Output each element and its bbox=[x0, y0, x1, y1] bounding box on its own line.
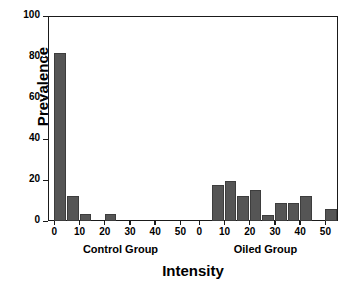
y-tick-0: 0 bbox=[0, 221, 48, 222]
y-tick-mark bbox=[43, 180, 48, 182]
y-tick-mark bbox=[43, 221, 48, 223]
y-tick-20: 20 bbox=[0, 180, 48, 181]
y-tick-mark bbox=[43, 57, 48, 59]
x-tick-mark bbox=[224, 221, 226, 225]
x-tick-mark bbox=[249, 221, 251, 225]
y-tick-label: 80 bbox=[29, 50, 40, 61]
x-tick-label: 0 bbox=[40, 226, 68, 237]
y-tick-mark bbox=[43, 98, 48, 100]
x-tick-mark bbox=[154, 221, 156, 225]
y-tick-60: 60 bbox=[0, 98, 48, 99]
y-tick-mark bbox=[43, 139, 48, 141]
x-tick-label: 10 bbox=[211, 226, 239, 237]
y-tick-40: 40 bbox=[0, 139, 48, 140]
x-tick-label: 20 bbox=[236, 226, 264, 237]
x-tick-label: 10 bbox=[66, 226, 94, 237]
x-axis-title: Intensity bbox=[48, 262, 338, 279]
y-tick-mark bbox=[43, 16, 48, 18]
x-tick-label: 50 bbox=[311, 226, 339, 237]
y-tick-label: 100 bbox=[23, 9, 40, 20]
x-tick-label: 20 bbox=[91, 226, 119, 237]
y-tick-label: 0 bbox=[34, 214, 40, 225]
y-tick-label: 60 bbox=[29, 91, 40, 102]
y-tick-80: 80 bbox=[0, 57, 48, 58]
x-tick-mark bbox=[299, 221, 301, 225]
x-tick-mark bbox=[274, 221, 276, 225]
x-tick-label: 30 bbox=[261, 226, 289, 237]
x-tick-label: 0 bbox=[185, 226, 213, 237]
x-tick-mark bbox=[325, 221, 327, 225]
x-tick-mark bbox=[180, 221, 182, 225]
x-tick-mark bbox=[54, 221, 56, 225]
group-label-oiled-group: Oiled Group bbox=[196, 243, 336, 255]
y-tick-100: 100 bbox=[0, 16, 48, 17]
x-tick-mark bbox=[79, 221, 81, 225]
group-label-control-group: Control Group bbox=[51, 243, 191, 255]
x-tick-mark bbox=[129, 221, 131, 225]
x-tick-label: 40 bbox=[286, 226, 314, 237]
x-tick-label: 30 bbox=[116, 226, 144, 237]
prevalence-intensity-bar-chart: Prevalence 020406080100 0102030405001020… bbox=[0, 0, 350, 290]
x-tick-mark bbox=[199, 221, 201, 225]
y-tick-label: 20 bbox=[29, 173, 40, 184]
y-tick-label: 40 bbox=[29, 132, 40, 143]
x-tick-label: 40 bbox=[141, 226, 169, 237]
plot-area bbox=[48, 16, 338, 221]
x-tick-mark bbox=[104, 221, 106, 225]
